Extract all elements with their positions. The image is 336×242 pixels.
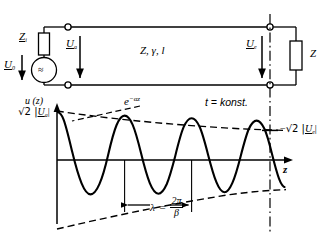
load-impedance-label: Z: [310, 48, 316, 59]
load-impedance-box: [290, 41, 302, 70]
output-voltage-label: Ue: [246, 38, 257, 49]
load-branch: [290, 27, 302, 85]
plot-x-axis-label: z: [283, 164, 287, 175]
line-parameters-label: Z, γ, l: [140, 45, 165, 56]
terminal-level-label: −√2 |Ue|: [280, 124, 317, 134]
input-voltage-label: Ua: [66, 38, 77, 49]
plot-y-axis-label: u (z) √2 |Ua|: [6, 96, 62, 117]
source-branch: [32, 27, 69, 85]
node-input-bottom: [65, 82, 71, 88]
y-axis-label-amplitude: √2 |Ua|: [6, 107, 62, 118]
wavelength-fraction: 2π β: [170, 196, 182, 218]
time-condition-label: t = konst.: [205, 97, 248, 109]
ac-source-symbol: [32, 58, 57, 83]
node-output-top: [267, 24, 273, 30]
envelope-decay-label: e−αz: [124, 96, 140, 107]
node-input-top: [65, 24, 71, 30]
source-voltage-label: U0: [4, 59, 15, 70]
wavelength-label: λ = 2π β: [150, 196, 183, 218]
internal-impedance-box: [39, 33, 50, 55]
internal-impedance-label: Zi: [19, 31, 27, 42]
ac-source-glyph: ≈: [38, 65, 44, 75]
upper-envelope: [57, 111, 286, 130]
figure-transmission-line: Zi U0 ≈ Ua Z, γ, l Ue Z u (z) √2 |Ua| e−…: [0, 0, 336, 242]
